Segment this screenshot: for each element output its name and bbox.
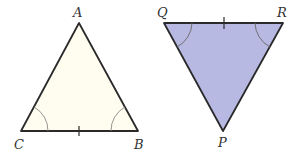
triangle-abc-shape (21, 23, 138, 131)
vertex-label-r: R (276, 5, 287, 20)
triangle-qrp: Q R P (157, 5, 287, 150)
vertex-label-a: A (72, 5, 82, 20)
triangle-qrp-shape (164, 23, 283, 131)
vertex-label-q: Q (157, 5, 168, 20)
diagram-stage: A C B Q R P (0, 0, 302, 159)
triangles-diagram: A C B Q R P (0, 0, 302, 159)
vertex-label-c: C (14, 137, 24, 152)
triangle-abc: A C B (14, 5, 144, 152)
vertex-label-p: P (217, 135, 227, 150)
vertex-label-b: B (133, 137, 144, 152)
